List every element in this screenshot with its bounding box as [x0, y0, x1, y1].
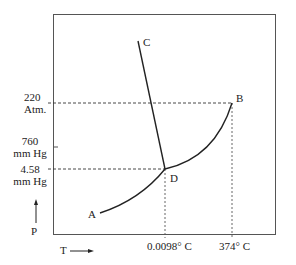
label-atm: Atm. — [24, 103, 46, 115]
label-760-mmhg: 760 mm Hg — [10, 135, 50, 159]
plot-frame — [54, 15, 276, 235]
point-a-label: A — [88, 208, 96, 220]
label-220-atm: 220 Atm. — [24, 91, 46, 115]
vaporization-curve-DB — [165, 103, 232, 169]
t-axis-label: T — [60, 244, 67, 256]
point-d-label: D — [170, 172, 178, 184]
point-c-label: C — [143, 36, 150, 48]
critical-temp-label: 374° C — [219, 240, 250, 252]
label-mmhg-2: mm Hg — [10, 175, 50, 187]
sublimation-curve-AD — [100, 169, 165, 213]
t-arrow-head — [88, 249, 94, 253]
label-mmhg-1: mm Hg — [10, 147, 50, 159]
label-4.58-mmhg: 4.58 mm Hg — [10, 163, 50, 187]
point-b-label: B — [236, 92, 243, 104]
label-220: 220 — [24, 91, 46, 103]
triple-temp-label: 0.0098° C — [147, 240, 192, 252]
fusion-curve-DC — [138, 41, 165, 169]
p-axis-label: P — [31, 225, 37, 237]
label-4.58: 4.58 — [10, 163, 50, 175]
p-arrow-head — [34, 199, 38, 205]
label-760: 760 — [10, 135, 50, 147]
